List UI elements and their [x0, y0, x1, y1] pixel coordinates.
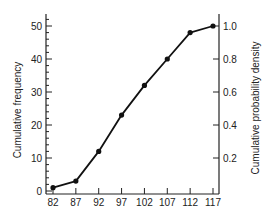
y-tick-label-left: 30: [31, 87, 43, 98]
data-point-marker: [188, 30, 193, 35]
y-tick-label-left: 50: [31, 21, 43, 32]
x-tick-label: 87: [70, 197, 82, 208]
y-tick-label-left: 40: [31, 54, 43, 65]
x-tick-label: 82: [47, 197, 59, 208]
x-tick-label: 92: [93, 197, 105, 208]
data-point-marker: [210, 23, 215, 28]
y-axis-title-right: Cumulative probability density: [250, 42, 261, 175]
data-point-marker: [142, 83, 147, 88]
y-tick-label-right: 0.2: [223, 153, 237, 164]
data-point-marker: [73, 179, 78, 184]
y-tick-label-right: 1.0: [223, 21, 237, 32]
y-tick-label-left: 10: [31, 153, 43, 164]
series-line: [53, 26, 213, 188]
x-tick-label: 97: [116, 197, 128, 208]
data-point-marker: [50, 185, 55, 190]
x-tick-label: 102: [136, 197, 153, 208]
x-tick-label: 117: [205, 197, 221, 208]
data-point-marker: [96, 149, 101, 154]
tick-labels: 010203040500.20.40.60.81.082879297102107…: [31, 21, 237, 209]
y-tick-label-right: 0.4: [223, 120, 237, 131]
y-tick-label-right: 0.8: [223, 54, 237, 65]
y-tick-label-left: 20: [31, 120, 43, 131]
y-axis-title-left: Cumulative frequency: [12, 62, 23, 159]
x-tick-label: 112: [182, 197, 198, 208]
data-point-marker: [119, 113, 124, 118]
data-point-marker: [165, 56, 170, 61]
axes: [46, 14, 219, 194]
ticks: [46, 19, 219, 194]
data-series-line: [50, 23, 215, 190]
cumulative-frequency-chart: 010203040500.20.40.60.81.082879297102107…: [0, 0, 268, 218]
y-tick-label-right: 0.6: [223, 87, 237, 98]
y-tick-label-left: 0: [36, 186, 42, 197]
x-tick-label: 107: [159, 197, 176, 208]
